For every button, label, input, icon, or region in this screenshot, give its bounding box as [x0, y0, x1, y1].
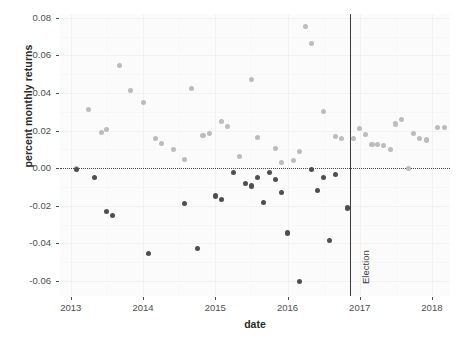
data-point	[273, 177, 278, 182]
data-point	[321, 109, 326, 114]
gridline-v-major	[215, 14, 216, 296]
x-tick-mark	[360, 297, 361, 300]
y-tick-mark	[56, 131, 59, 132]
x-tick-mark	[432, 297, 433, 300]
data-point	[442, 125, 447, 130]
gridline-v-minor	[251, 14, 252, 296]
zero-reference-line	[60, 168, 450, 169]
gridline-v-major	[288, 14, 289, 296]
gridline-h-minor	[60, 37, 450, 38]
y-tick-mark	[56, 206, 59, 207]
y-tick-mark	[56, 281, 59, 282]
gridline-h-minor	[60, 262, 450, 263]
x-tick-mark	[215, 297, 216, 300]
x-tick-mark	[143, 297, 144, 300]
data-point	[261, 200, 266, 205]
x-tick-label: 2014	[123, 302, 163, 313]
gridline-v-major	[71, 14, 72, 296]
x-tick-label: 2015	[195, 302, 235, 313]
data-point	[321, 175, 326, 180]
data-point	[182, 157, 187, 162]
data-point	[213, 193, 218, 198]
y-tick-label: -0.04	[11, 237, 51, 248]
data-point	[309, 167, 314, 172]
data-point	[399, 117, 404, 122]
gridline-h-minor	[60, 112, 450, 113]
data-point	[351, 136, 356, 141]
data-point	[195, 246, 200, 251]
data-point	[255, 135, 260, 140]
x-tick-mark	[71, 297, 72, 300]
data-point	[273, 146, 278, 151]
gridline-h-major	[60, 206, 450, 207]
gridline-h-major	[60, 55, 450, 56]
data-point	[231, 170, 236, 175]
y-tick-label: 0.08	[11, 12, 51, 23]
data-point	[309, 41, 314, 46]
gridline-h-major	[60, 281, 450, 282]
data-point	[393, 121, 398, 126]
x-tick-label: 2016	[268, 302, 308, 313]
data-point	[249, 77, 254, 82]
data-point	[219, 197, 224, 202]
data-point	[315, 188, 320, 193]
data-point	[117, 63, 122, 68]
x-axis-title: date	[60, 318, 450, 330]
data-point	[249, 183, 254, 188]
gridline-v-minor	[107, 14, 108, 296]
data-point	[171, 147, 176, 152]
data-point	[417, 136, 422, 141]
y-tick-label: -0.06	[11, 275, 51, 286]
data-point	[279, 160, 284, 165]
gridline-h-minor	[60, 187, 450, 188]
data-point	[237, 154, 242, 159]
gridline-v-major	[432, 14, 433, 296]
data-point	[369, 142, 374, 147]
gridline-v-minor	[179, 14, 180, 296]
x-tick-mark	[288, 297, 289, 300]
x-tick-label: 2013	[51, 302, 91, 313]
election-line-label: Election	[360, 250, 371, 284]
data-point	[381, 143, 386, 148]
chart-root: percent monthly returns date 0.080.060.0…	[0, 0, 462, 342]
x-tick-label: 2017	[340, 302, 380, 313]
data-point	[255, 175, 260, 180]
data-point	[146, 251, 151, 256]
data-point	[267, 170, 272, 175]
gridline-h-major	[60, 93, 450, 94]
gridline-h-major	[60, 18, 450, 19]
data-point	[291, 158, 296, 163]
y-tick-mark	[56, 18, 59, 19]
y-tick-label: 0.04	[11, 87, 51, 98]
gridline-h-minor	[60, 74, 450, 75]
data-point	[303, 24, 308, 29]
data-point	[153, 136, 158, 141]
data-point	[110, 213, 115, 218]
y-tick-label: 0.06	[11, 49, 51, 60]
data-point	[243, 181, 248, 186]
y-tick-label: 0.00	[11, 162, 51, 173]
gridline-v-minor	[396, 14, 397, 296]
y-tick-mark	[56, 168, 59, 169]
data-point	[424, 137, 429, 142]
data-point	[435, 125, 440, 130]
data-point	[333, 172, 338, 177]
data-point	[327, 238, 332, 243]
data-point	[104, 209, 109, 214]
data-point	[411, 131, 416, 136]
gridline-h-minor	[60, 225, 450, 226]
data-point	[297, 149, 302, 154]
data-point	[225, 124, 230, 129]
y-tick-label: -0.02	[11, 200, 51, 211]
data-point	[285, 230, 290, 235]
gridline-v-major	[143, 14, 144, 296]
y-tick-mark	[56, 93, 59, 94]
election-line	[350, 14, 352, 296]
y-tick-label: 0.02	[11, 125, 51, 136]
data-point	[207, 131, 212, 136]
gridline-v-minor	[324, 14, 325, 296]
data-point	[74, 167, 79, 172]
gridline-h-major	[60, 131, 450, 132]
plot-panel	[60, 14, 450, 296]
y-tick-mark	[56, 243, 59, 244]
